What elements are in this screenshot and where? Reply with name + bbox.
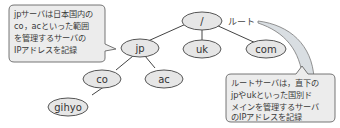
node-gihyo-label: gihyo bbox=[54, 102, 82, 113]
root-server-callout: ルートサーバは，直下の jpやukといった国別ド メインを管理するサーバ のIP… bbox=[226, 66, 335, 122]
jp-callout-line-3: を管理するサーバの bbox=[14, 33, 86, 43]
edge-jp-ac bbox=[145, 56, 155, 68]
node-gihyo: gihyo bbox=[48, 98, 88, 116]
root-callout-line-3: メインを管理するサーバ bbox=[231, 102, 319, 112]
node-co-label: co bbox=[96, 74, 108, 85]
node-co: co bbox=[83, 70, 121, 88]
node-com-label: com bbox=[255, 44, 276, 55]
node-ac: ac bbox=[145, 70, 183, 88]
node-ac-label: ac bbox=[158, 74, 170, 85]
node-com: com bbox=[246, 40, 286, 58]
jp-callout-line-4: IPアドレスを記録 bbox=[14, 45, 77, 55]
root-callout-line-2: jpやukといった国別ド bbox=[230, 90, 312, 100]
root-callout-line-1: ルートサーバは，直下の bbox=[231, 78, 319, 88]
edge-root-com bbox=[216, 25, 258, 44]
jp-server-callout: jpサーバは日本国内の co，acといった範囲 を管理するサーバの IPアドレス… bbox=[9, 5, 116, 62]
edge-root-jp bbox=[148, 24, 186, 41]
dns-tree-diagram: jpサーバは日本国内の co，acといった範囲 を管理するサーバの IPアドレス… bbox=[0, 0, 340, 128]
jp-callout-line-2: co，acといった範囲 bbox=[14, 21, 89, 31]
root-callout-line-4: のIPアドレスを記録 bbox=[231, 112, 302, 122]
node-root: / bbox=[182, 12, 222, 30]
node-jp-label: jp bbox=[134, 43, 144, 54]
node-jp: jp bbox=[121, 39, 159, 57]
edge-jp-co bbox=[116, 56, 133, 70]
root-label: ルート bbox=[228, 17, 255, 27]
node-uk-label: uk bbox=[196, 44, 208, 55]
jp-callout-line-1: jpサーバは日本国内の bbox=[13, 9, 93, 19]
node-uk: uk bbox=[183, 40, 221, 58]
